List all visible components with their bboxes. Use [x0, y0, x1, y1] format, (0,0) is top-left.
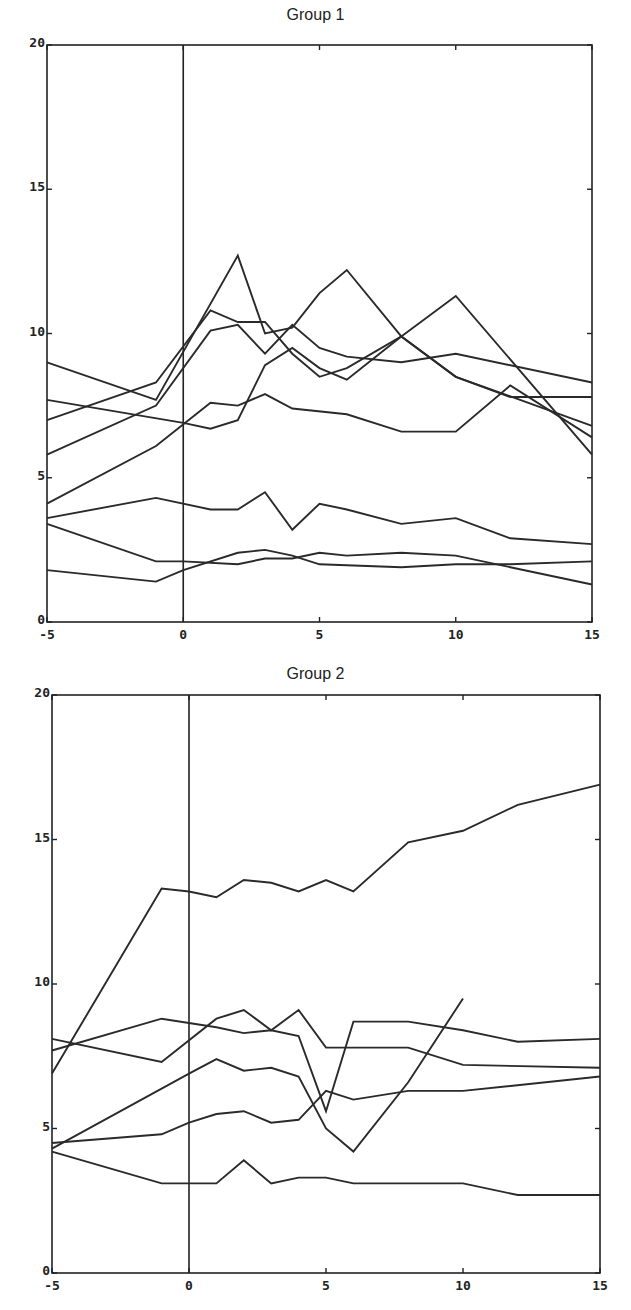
- y-tick-label: 0: [42, 1263, 50, 1278]
- x-tick-label: 10: [455, 1278, 471, 1293]
- y-tick-label: 20: [34, 685, 50, 700]
- series-line: [52, 785, 600, 1074]
- x-tick-label: 0: [185, 1278, 193, 1293]
- plot-frame: [52, 695, 600, 1273]
- chart-panel-group-2: Group 2 -505101505101520: [0, 0, 631, 1310]
- series-line: [52, 1152, 600, 1195]
- x-tick-label: 15: [592, 1278, 608, 1293]
- y-tick-label: 10: [34, 974, 50, 989]
- y-tick-label: 5: [42, 1119, 50, 1134]
- x-tick-label: -5: [44, 1278, 60, 1293]
- line-chart-group-2: -505101505101520: [0, 0, 631, 1310]
- series-line: [52, 1019, 600, 1111]
- x-tick-label: 5: [322, 1278, 330, 1293]
- series-line: [52, 1010, 600, 1068]
- y-tick-label: 15: [34, 830, 50, 845]
